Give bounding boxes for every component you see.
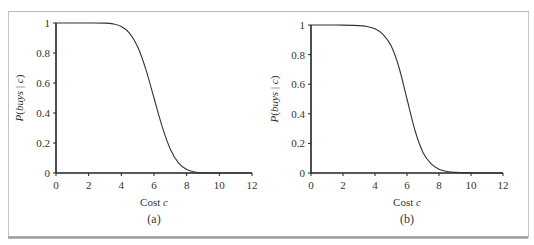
y-tick-label: 1 (300, 19, 306, 31)
data-curve (56, 23, 252, 173)
x-tick-label: 6 (151, 179, 157, 191)
y-tick-label: 0.4 (291, 108, 305, 120)
x-tick-label: 12 (498, 179, 509, 191)
y-tick-label: 1 (45, 17, 51, 29)
x-tick-label: 2 (340, 179, 346, 191)
y-tick-label: 0.6 (36, 77, 50, 89)
chart-panel-a: 00.20.40.60.81024681012Cost cP(buys | c)… (13, 17, 258, 226)
y-axis-title: P(buys | c) (268, 75, 281, 123)
chart-panel-b: 00.20.40.60.81024681012Cost cP(buys | c)… (268, 19, 509, 226)
x-axis-title: Cost c (393, 196, 421, 208)
x-tick-label: 12 (247, 179, 258, 191)
panel-caption: (a) (147, 212, 160, 226)
y-axis-title: P(buys | c) (13, 74, 26, 122)
x-tick-label: 6 (404, 179, 410, 191)
x-tick-label: 0 (308, 179, 314, 191)
y-tick-label: 0.2 (291, 137, 305, 149)
y-tick-label: 0.8 (291, 49, 305, 61)
x-tick-label: 8 (184, 179, 190, 191)
y-tick-label: 0.4 (36, 107, 50, 119)
x-tick-label: 8 (436, 179, 442, 191)
y-tick-label: 0.2 (36, 137, 50, 149)
x-tick-label: 10 (214, 179, 226, 191)
panel-caption: (b) (400, 212, 414, 226)
y-tick-label: 0.6 (291, 78, 305, 90)
y-tick-label: 0.8 (36, 47, 50, 59)
y-tick-label: 0 (45, 167, 51, 179)
x-tick-label: 2 (86, 179, 92, 191)
data-curve (311, 25, 503, 173)
x-tick-label: 4 (372, 179, 378, 191)
x-tick-label: 0 (53, 179, 59, 191)
y-tick-label: 0 (300, 167, 306, 179)
x-tick-label: 10 (466, 179, 478, 191)
x-axis-title: Cost c (140, 196, 168, 208)
x-tick-label: 4 (119, 179, 125, 191)
figure-canvas: 00.20.40.60.81024681012Cost cP(buys | c)… (0, 0, 534, 245)
